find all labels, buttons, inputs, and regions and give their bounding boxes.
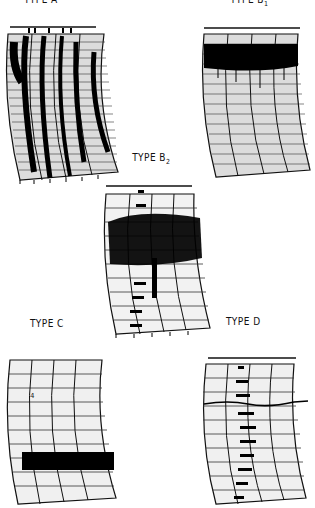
label-type-d: TYPE D [226,316,261,327]
chart-panel-type-b2 [100,178,215,340]
label-type-b1-text: TYPE B [230,0,264,5]
label-type-b1-sub: 1 [264,0,268,8]
chart-panel-type-d [198,352,315,508]
label-type-c: TYPE C [30,318,64,329]
label-type-b1: TYPE B1 [230,0,268,8]
label-type-b2: TYPE B2 [132,152,170,166]
label-type-b2-text: TYPE B [132,152,166,163]
chart-panel-type-a [4,22,124,187]
chart-panel-type-c: 4 [4,356,124,508]
label-type-a: TYPE A [24,0,58,5]
svg-text:4: 4 [30,392,35,400]
label-type-b2-sub: 2 [166,158,170,166]
chart-panel-type-b1 [198,22,315,182]
